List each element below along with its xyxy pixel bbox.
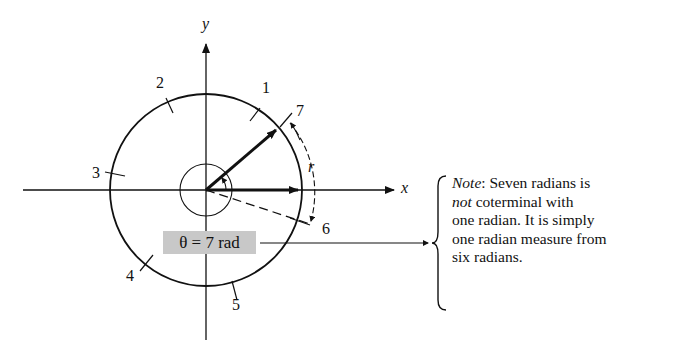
six-radian-dashed-line	[206, 190, 310, 224]
note-line-4: one radian measure from	[452, 230, 692, 249]
tick-label-1: 1	[262, 80, 270, 96]
note-line-2: coterminal with	[472, 193, 574, 210]
tick-label-2: 2	[156, 75, 164, 91]
tick-label-6: 6	[322, 221, 330, 237]
note-not: not	[452, 193, 472, 210]
tick-label-7: 7	[296, 103, 304, 119]
note-line-3: one radian. It is simply	[452, 211, 692, 230]
note-prefix: Note	[452, 174, 481, 191]
x-axis-label: x	[401, 180, 408, 196]
note-brace	[432, 176, 446, 310]
note-text: Note: Seven radians is not coterminal wi…	[452, 174, 692, 267]
note-line-1: : Seven radians is	[481, 174, 590, 191]
tick-label-4: 4	[126, 268, 134, 284]
tick-label-5: 5	[232, 297, 240, 313]
terminal-side-arrow	[206, 130, 276, 190]
note-line-5: six radians.	[452, 248, 692, 267]
angle-arc	[222, 178, 226, 190]
tick-label-3: 3	[92, 165, 100, 181]
arc-label-r: r	[308, 159, 314, 175]
unit-circle-diagram	[0, 0, 695, 343]
y-axis-label: y	[202, 16, 209, 32]
theta-label: θ = 7 rad	[163, 231, 256, 254]
